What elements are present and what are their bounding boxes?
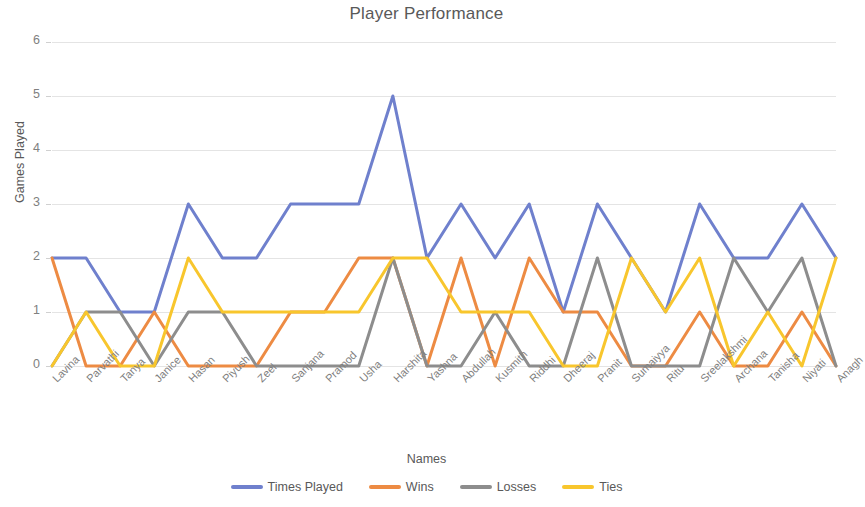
y-tick-label: 3 — [0, 195, 40, 209]
y-tick-mark — [46, 96, 51, 97]
legend-label: Wins — [406, 480, 434, 494]
x-axis-tick-labels: LavinaParvathiTanyaJaniceHasanPiyushZeel… — [52, 370, 836, 440]
series-line-wins — [52, 258, 836, 366]
legend-item[interactable]: Wins — [369, 480, 434, 494]
y-tick-mark — [46, 42, 51, 43]
y-tick-label: 5 — [0, 87, 40, 101]
legend-swatch-icon — [562, 485, 594, 489]
legend-label: Losses — [497, 480, 537, 494]
legend-swatch-icon — [460, 485, 492, 489]
legend-swatch-icon — [231, 485, 263, 489]
y-tick-mark — [46, 312, 51, 313]
legend-swatch-icon — [369, 485, 401, 489]
y-tick-label: 4 — [0, 141, 40, 155]
plot-area — [52, 42, 836, 366]
x-tick-label: Anagh — [834, 354, 865, 385]
legend-item[interactable]: Ties — [562, 480, 622, 494]
legend-label: Times Played — [268, 480, 343, 494]
x-axis-title: Names — [0, 452, 853, 466]
series-lines — [52, 42, 836, 366]
legend-item[interactable]: Times Played — [231, 480, 343, 494]
chart-legend: Times PlayedWinsLossesTies — [0, 480, 853, 494]
legend-label: Ties — [599, 480, 622, 494]
series-line-times-played — [52, 96, 836, 312]
y-tick-label: 1 — [0, 303, 40, 317]
y-tick-mark — [46, 258, 51, 259]
legend-item[interactable]: Losses — [460, 480, 537, 494]
y-tick-label: 0 — [0, 357, 40, 371]
y-tick-mark — [46, 204, 51, 205]
chart-title: Player Performance — [0, 4, 853, 24]
y-tick-mark — [46, 366, 51, 367]
y-tick-mark — [46, 150, 51, 151]
y-tick-label: 2 — [0, 249, 40, 263]
y-tick-label: 6 — [0, 33, 40, 47]
